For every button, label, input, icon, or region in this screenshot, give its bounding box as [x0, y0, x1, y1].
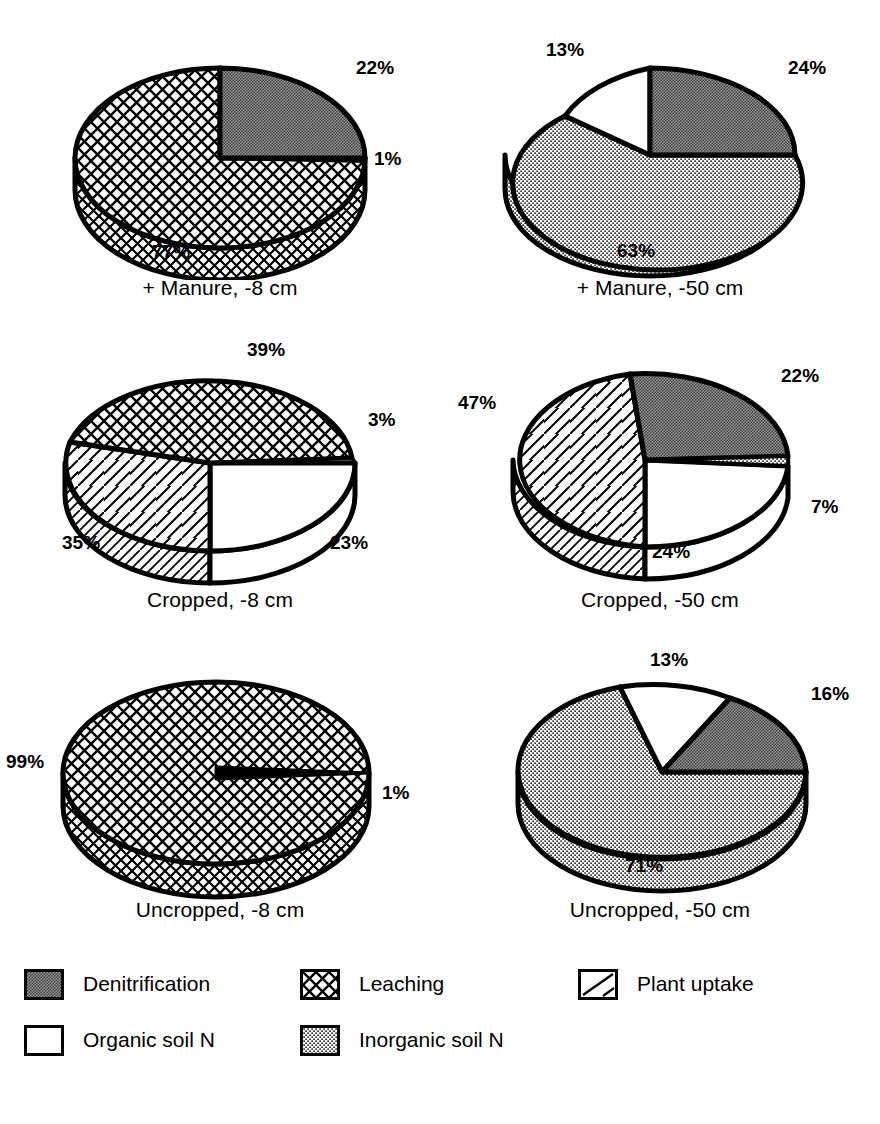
legend-label-denitrification: Denitrification — [83, 972, 210, 996]
pie-label-24: 24% — [788, 58, 826, 77]
legend-item-leaching: Leaching — [300, 962, 444, 1006]
pie-label-24: 24% — [652, 542, 690, 561]
pie-svg-uncropped-8cm — [0, 640, 440, 902]
chart-grid: 22% 1% 77% + Manure, -8 cm 13% — [0, 0, 880, 940]
chart-cell-uncropped-50cm: 13% 16% 71% Uncropped, -50 cm — [440, 640, 880, 952]
legend-label-inorganic-soil-n: Inorganic soil N — [359, 1028, 504, 1052]
chart-cell-uncropped-8cm: 99% 1% Uncropped, -8 cm — [0, 640, 440, 952]
denitrification-swatch-icon — [24, 969, 64, 1000]
pie-uncropped-8cm: 99% 1% — [0, 640, 440, 902]
legend-item-organic-soil-n: Organic soil N — [24, 1018, 215, 1062]
pie-slice-denitrification — [220, 68, 365, 158]
leaching-swatch-icon — [300, 969, 340, 1000]
pie-label-99: 99% — [6, 752, 44, 771]
pie-label-13: 13% — [650, 650, 688, 669]
legend-item-plant-uptake: Plant uptake — [578, 962, 754, 1006]
pie-label-77: 77% — [152, 242, 190, 261]
pie-manure-50cm: 13% 24% 63% — [440, 18, 880, 280]
plant-uptake-swatch-icon — [578, 969, 618, 1000]
chart-title-uncropped-8cm: Uncropped, -8 cm — [0, 898, 440, 922]
chart-cell-manure-50cm: 13% 24% 63% + Manure, -50 cm — [440, 18, 880, 330]
legend-item-inorganic-soil-n: Inorganic soil N — [300, 1018, 504, 1062]
legend-item-denitrification: Denitrification — [24, 962, 210, 1006]
pie-label-22: 22% — [781, 366, 819, 385]
pie-label-3: 3% — [368, 410, 395, 429]
legend-label-organic-soil-n: Organic soil N — [83, 1028, 215, 1052]
pie-label-71: 71% — [625, 856, 663, 875]
pie-label-63: 63% — [617, 241, 655, 260]
pie-label-7: 7% — [811, 497, 838, 516]
pie-manure-8cm: 22% 1% 77% — [0, 18, 440, 280]
pie-cropped-50cm: 22% 47% 7% 24% — [440, 330, 880, 592]
organic-soil-n-swatch-icon — [24, 1025, 64, 1056]
legend-label-plant-uptake: Plant uptake — [637, 972, 754, 996]
chart-cell-manure-8cm: 22% 1% 77% + Manure, -8 cm — [0, 18, 440, 330]
pie-uncropped-50cm: 13% 16% 71% — [440, 640, 880, 902]
legend-row-bottom: Organic soil N Inorganic soil N — [24, 1018, 864, 1068]
legend-label-leaching: Leaching — [359, 972, 444, 996]
pie-label-13: 13% — [546, 40, 584, 59]
chart-title-cropped-50cm: Cropped, -50 cm — [440, 588, 880, 612]
chart-title-manure-50cm: + Manure, -50 cm — [440, 276, 880, 300]
pie-label-47: 47% — [458, 393, 496, 412]
pie-label-22: 22% — [356, 58, 394, 77]
pie-chart-figure: 22% 1% 77% + Manure, -8 cm 13% — [0, 0, 880, 1124]
pie-label-1: 1% — [374, 149, 401, 168]
pie-slice-denitrification — [630, 373, 788, 460]
inorganic-soil-n-swatch-icon — [300, 1025, 340, 1056]
pie-label-39: 39% — [247, 340, 285, 359]
pie-label-35: 35% — [62, 533, 100, 552]
legend-row-top: Denitrification Leaching — [24, 962, 864, 1012]
chart-cell-cropped-50cm: 22% 47% 7% 24% Cropped, -50 cm — [440, 330, 880, 642]
legend: Denitrification Leaching — [24, 962, 864, 1082]
chart-title-cropped-8cm: Cropped, -8 cm — [0, 588, 440, 612]
pie-label-1: 1% — [382, 783, 409, 802]
pie-label-16: 16% — [811, 684, 849, 703]
chart-cell-cropped-8cm: 39% 3% 35% 23% Cropped, -8 cm — [0, 330, 440, 642]
pie-slice-denitrification — [650, 68, 795, 155]
chart-title-uncropped-50cm: Uncropped, -50 cm — [440, 898, 880, 922]
pie-cropped-8cm: 39% 3% 35% 23% — [0, 330, 440, 592]
pie-label-23: 23% — [330, 533, 368, 552]
pie-slice-leaching — [70, 381, 352, 463]
chart-title-manure-8cm: + Manure, -8 cm — [0, 276, 440, 300]
